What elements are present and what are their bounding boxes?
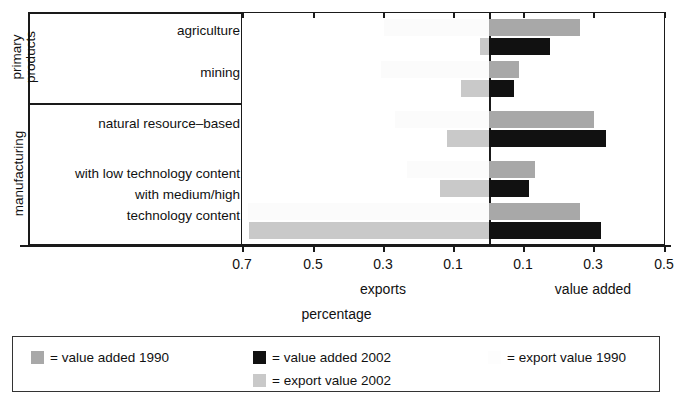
x-tick-3	[453, 245, 455, 252]
top-tick-1	[313, 12, 315, 18]
top-tick-4	[523, 12, 525, 18]
bar-natural-resource-based-export-value-2002	[447, 130, 489, 147]
category-label-low-technology: with low technology content	[75, 166, 240, 181]
group-label-primary-line1: primary	[10, 14, 24, 100]
legend-swatch-value-added-1990-icon	[31, 351, 44, 364]
bar-natural-resource-based-value-added-2002	[489, 130, 606, 147]
x-tick-2	[383, 245, 385, 252]
bar-natural-resource-based-value-added-1990	[489, 111, 594, 128]
bar-natural-resource-based-export-value-1990	[395, 111, 490, 128]
bar-with-low-technology-content-export-value-2002	[440, 180, 489, 197]
axis-label-exports: exports	[303, 281, 463, 297]
bar-agriculture-value-added-1990	[489, 19, 580, 36]
axis-title-percentage: percentage	[0, 306, 673, 322]
legend-label-export-value-1990: = export value 1990	[507, 350, 626, 365]
x-tick-label-1: 0.5	[293, 256, 333, 272]
bar-with-low-technology-content-value-added-1990	[489, 161, 535, 178]
top-tick-3	[453, 12, 455, 18]
legend-item-export-value-1990: = export value 1990	[488, 350, 626, 365]
plot-area	[241, 12, 665, 245]
top-tick-6	[664, 12, 666, 18]
bar-agriculture-export-value-1990	[384, 19, 489, 36]
legend-label-value-added-1990: = value added 1990	[50, 350, 169, 365]
bar-with-low-technology-content-value-added-2002	[489, 180, 529, 197]
x-axis-line	[20, 245, 671, 247]
legend-item-value-added-1990: = value added 1990	[31, 350, 169, 365]
bar-mining-value-added-2002	[489, 80, 514, 97]
bar-mining-export-value-1990	[381, 61, 490, 78]
top-tick-2	[383, 12, 385, 18]
legend-item-value-added-2002: = value added 2002	[253, 350, 391, 365]
category-label-mining: mining	[200, 65, 240, 80]
x-tick-label-2: 0.3	[363, 256, 403, 272]
bar-with-medium-high-technology-content-value-added-2002	[489, 222, 601, 239]
x-tick-label-3: 0.1	[433, 256, 473, 272]
top-tick-5	[593, 12, 595, 18]
axis-label-value-added: value added	[513, 281, 673, 297]
x-tick-4	[523, 245, 525, 252]
legend-label-value-added-2002: = value added 2002	[272, 350, 391, 365]
bar-agriculture-export-value-2002	[480, 38, 489, 55]
x-tick-0	[242, 245, 244, 252]
legend-item-export-value-2002: = export value 2002	[253, 373, 391, 388]
category-label-column: agriculture mining natural resource–base…	[28, 12, 240, 245]
category-label-agriculture: agriculture	[177, 23, 240, 38]
x-tick-label-6: 0.5	[644, 256, 678, 272]
bar-with-medium-high-technology-content-export-value-2002	[249, 222, 489, 239]
legend-label-export-value-2002: = export value 2002	[272, 373, 391, 388]
category-label-medium-high-technology-line2: technology content	[127, 208, 240, 223]
bar-with-low-technology-content-export-value-1990	[407, 161, 489, 178]
legend: = value added 1990 = value added 2002 = …	[12, 336, 660, 392]
category-label-medium-high-technology-line1: with medium/high	[135, 187, 240, 202]
top-tick-0	[242, 12, 244, 18]
group-label-manufacturing: manufacturing	[12, 105, 26, 242]
x-tick-1	[313, 245, 315, 252]
category-label-natural-resource-based: natural resource–based	[98, 116, 240, 131]
bar-agriculture-value-added-2002	[489, 38, 550, 55]
x-tick-label-5: 0.3	[573, 256, 613, 272]
legend-swatch-export-value-1990-icon	[488, 351, 501, 364]
bar-with-medium-high-technology-content-value-added-1990	[489, 203, 580, 220]
x-tick-label-4: 0.1	[503, 256, 543, 272]
legend-swatch-export-value-2002-icon	[253, 374, 266, 387]
bar-with-medium-high-technology-content-export-value-1990	[248, 203, 490, 220]
legend-swatch-value-added-2002-icon	[253, 351, 266, 364]
bar-mining-export-value-2002	[461, 80, 489, 97]
x-tick-6	[664, 245, 666, 252]
bar-mining-value-added-1990	[489, 61, 519, 78]
x-tick-5	[593, 245, 595, 252]
x-tick-label-0: 0.7	[222, 256, 262, 272]
